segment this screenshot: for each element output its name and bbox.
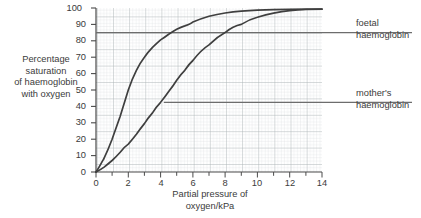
x-tick-label: 2 [118, 178, 138, 188]
y-tick-label: 50 [64, 85, 86, 95]
y-tick-label: 70 [64, 52, 86, 62]
y-tick-label: 30 [64, 117, 86, 127]
mothers-haemoglobin-annotation: mother's haemoglobin [356, 88, 409, 111]
y-tick-label: 90 [64, 19, 86, 29]
foetal-annotation-line-2: haemoglobin [356, 30, 409, 42]
y-tick-label: 0 [64, 167, 86, 177]
y-tick-label: 80 [64, 35, 86, 45]
x-axis-label-line-2: oxygen/kPa [120, 201, 300, 213]
x-tick-label: 0 [86, 178, 106, 188]
foetal-annotation-line-1: foetal [356, 18, 409, 30]
x-axis-label: Partial pressure of oxygen/kPa [120, 189, 300, 212]
x-tick-label: 4 [151, 178, 171, 188]
x-tick-label: 6 [183, 178, 203, 188]
x-tick-label: 12 [280, 178, 300, 188]
x-axis-label-line-1: Partial pressure of [120, 189, 300, 201]
mother-annotation-line-2: haemoglobin [356, 100, 409, 112]
x-tick-label: 10 [247, 178, 267, 188]
x-tick-label: 14 [312, 178, 332, 188]
y-tick-label: 100 [60, 3, 82, 13]
y-tick-label: 40 [64, 101, 86, 111]
y-tick-label: 20 [64, 134, 86, 144]
y-tick-label: 10 [64, 150, 86, 160]
foetal-haemoglobin-annotation: foetal haemoglobin [356, 18, 409, 41]
mother-annotation-line-1: mother's [356, 88, 409, 100]
x-tick-label: 8 [215, 178, 235, 188]
y-tick-label: 60 [64, 68, 86, 78]
